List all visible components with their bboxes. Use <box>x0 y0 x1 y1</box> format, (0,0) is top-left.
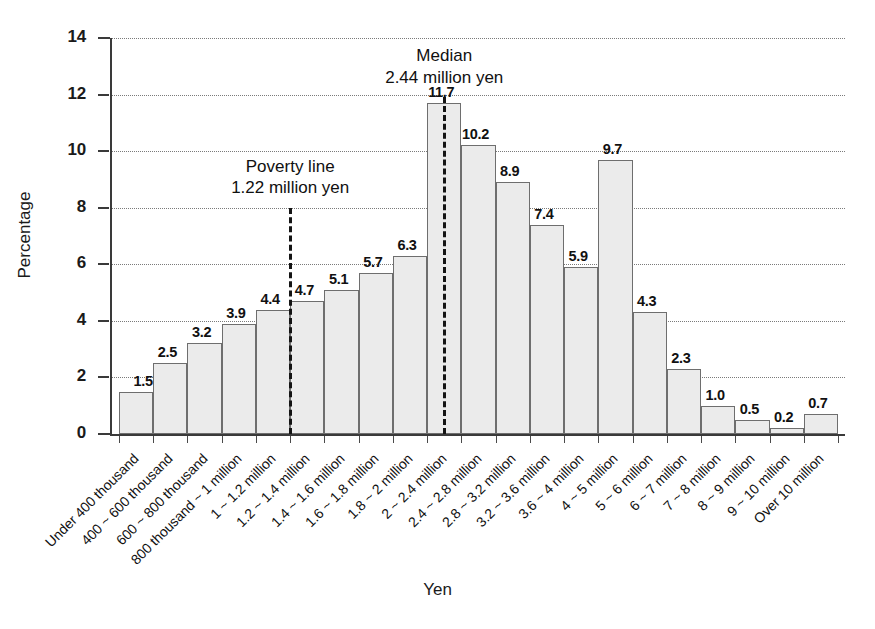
y-axis-tick-label: 2 <box>77 366 86 386</box>
y-axis-tick <box>98 263 109 265</box>
x-axis-tick <box>359 436 360 443</box>
y-axis-tick <box>98 376 109 378</box>
y-axis-title: Percentage <box>15 155 35 315</box>
x-axis-tick <box>461 436 462 443</box>
bar-value-label: 3.9 <box>206 305 266 321</box>
x-axis-tick <box>701 436 702 443</box>
bar <box>256 310 290 434</box>
y-axis-tick <box>98 94 109 96</box>
y-axis-tick-label: 4 <box>77 310 86 330</box>
median-line <box>443 97 446 434</box>
poverty-line-label-line2: 1.22 million yen <box>140 177 440 199</box>
x-axis-tick <box>187 436 188 443</box>
y-axis-tick-label: 12 <box>67 84 86 104</box>
y-axis-tick-label: 6 <box>77 253 86 273</box>
x-axis-tick <box>770 436 771 443</box>
y-axis-gridline <box>112 38 845 39</box>
y-axis-tick-label: 14 <box>67 27 86 47</box>
x-axis-tick <box>427 436 428 443</box>
x-axis-tick <box>290 436 291 443</box>
y-axis-gridline <box>112 95 845 96</box>
bar <box>359 273 393 434</box>
y-axis-line <box>110 38 112 434</box>
bar <box>564 267 598 434</box>
x-axis-tick <box>222 436 223 443</box>
x-axis-tick <box>633 436 634 443</box>
poverty-line-label-line1: Poverty line <box>140 156 440 178</box>
bar <box>324 290 358 434</box>
bar-value-label: 9.7 <box>582 141 642 157</box>
income-distribution-histogram: 02468101214 Percentage 1.52.53.23.94.44.… <box>0 0 875 629</box>
x-axis-tick <box>804 436 805 443</box>
x-axis-tick <box>256 436 257 443</box>
y-axis-end-cap <box>101 37 110 39</box>
bar-value-label: 7.4 <box>514 206 574 222</box>
bar <box>633 312 667 434</box>
bar-value-label: 8.9 <box>480 163 540 179</box>
y-axis-tick <box>98 207 109 209</box>
x-axis-tick <box>153 436 154 443</box>
bar-value-label: 0.7 <box>788 395 848 411</box>
x-axis-tick <box>667 436 668 443</box>
x-axis-tick <box>496 436 497 443</box>
bar-value-label: 5.1 <box>308 271 368 287</box>
x-axis-tick <box>324 436 325 443</box>
poverty-line-label: Poverty line1.22 million yen <box>140 156 440 200</box>
bar-value-label: 10.2 <box>445 126 505 142</box>
x-axis-tick <box>735 436 736 443</box>
y-axis-tick-label: 10 <box>67 140 86 160</box>
y-axis-tick <box>98 150 109 152</box>
bar <box>119 392 153 434</box>
bar-value-label: 1.5 <box>113 373 173 389</box>
bar-value-label: 4.3 <box>617 293 677 309</box>
y-axis-tick-label: 0 <box>77 423 86 443</box>
x-axis-tick <box>838 436 839 443</box>
bar-value-label: 5.7 <box>343 254 403 270</box>
bar-value-label: 0.2 <box>754 409 814 425</box>
x-axis-tick <box>530 436 531 443</box>
x-axis-title: Yen <box>0 580 875 600</box>
median-line-label-line1: Median <box>294 45 594 67</box>
poverty-line <box>289 208 292 434</box>
y-axis-tick <box>98 320 109 322</box>
median-line-label: Median2.44 million yen <box>294 45 594 89</box>
x-axis-tick <box>598 436 599 443</box>
bar-value-label: 6.3 <box>377 237 437 253</box>
bar-value-label: 2.3 <box>651 350 711 366</box>
bar <box>290 301 324 434</box>
median-line-label-line2: 2.44 million yen <box>294 67 594 89</box>
bar <box>461 145 495 434</box>
bar <box>393 256 427 434</box>
x-axis-tick <box>564 436 565 443</box>
x-axis-tick <box>393 436 394 443</box>
bar-value-label: 5.9 <box>548 248 608 264</box>
y-axis-tick-label: 8 <box>77 197 86 217</box>
y-axis-end-cap <box>101 433 110 435</box>
x-axis-tick <box>119 436 120 443</box>
bar-value-label: 2.5 <box>137 344 197 360</box>
bar-value-label: 3.2 <box>171 324 231 340</box>
